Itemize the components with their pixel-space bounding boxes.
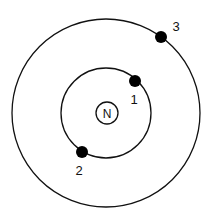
electron-2: 2: [75, 146, 88, 178]
electron-3: 3: [155, 19, 180, 43]
nucleus-label: N: [103, 107, 112, 121]
nucleus: N: [96, 102, 118, 124]
electron-3-dot: [155, 31, 167, 43]
electron-2-dot: [76, 146, 88, 158]
electron-3-label: 3: [172, 19, 179, 34]
electron-1-dot: [129, 75, 141, 87]
electron-1-label: 1: [130, 92, 137, 107]
atom-diagram: N 1 2 3: [0, 0, 210, 222]
electron-2-label: 2: [75, 163, 82, 178]
electron-1: 1: [129, 75, 141, 107]
